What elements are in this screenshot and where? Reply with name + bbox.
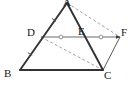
vertex-label-f: F [121, 27, 127, 38]
vertex-label-e: E [78, 26, 85, 37]
tick-mark-ef [99, 35, 103, 39]
vertex-label-b: B [4, 68, 11, 79]
geometry-figure: A B C D E F [0, 0, 134, 86]
geometry-canvas [0, 0, 134, 86]
vertex-label-a: A [63, 0, 71, 8]
tick-mark-de [59, 35, 63, 39]
vertex-label-c: C [104, 70, 111, 81]
vertex-label-d: D [27, 27, 35, 38]
segment-c-f [103, 37, 120, 70]
segment-a-f [67, 3, 120, 37]
